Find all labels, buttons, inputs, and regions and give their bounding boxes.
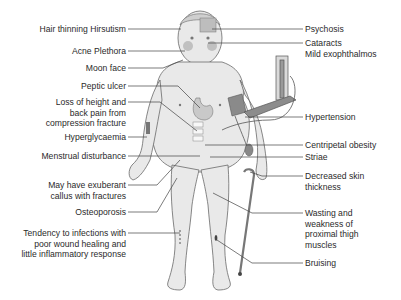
label-exuberant-callus: May have exuberant callus with fractures bbox=[2, 180, 126, 201]
label-osteoporosis: Osteoporosis bbox=[2, 207, 126, 218]
label-hyperglycaemia: Hyperglycaemia bbox=[2, 132, 126, 143]
label-peptic-ulcer: Peptic ulcer bbox=[2, 81, 126, 92]
label-decreased-skin-thickness: Decreased skin thickness bbox=[305, 171, 364, 192]
label-acne-plethora: Acne Plethora bbox=[2, 46, 126, 57]
label-hair-thinning-hirsutism: Hair thinning Hirsutism bbox=[2, 24, 126, 35]
label-wasting-weakness: Wasting and weakness of proximal thigh m… bbox=[305, 208, 359, 250]
label-moon-face: Moon face bbox=[2, 63, 126, 74]
brain-window bbox=[200, 18, 216, 32]
label-infection-tendency: Tendency to infections with poor wound h… bbox=[2, 228, 126, 260]
label-hypertension: Hypertension bbox=[305, 112, 356, 123]
walking-cane bbox=[240, 169, 254, 273]
bulb bbox=[245, 144, 253, 156]
label-psychosis: Psychosis bbox=[305, 24, 344, 35]
cheek bbox=[207, 41, 217, 51]
cheek bbox=[183, 41, 193, 51]
label-menstrual-disturbance: Menstrual disturbance bbox=[2, 151, 126, 162]
glucometer bbox=[146, 122, 150, 134]
left-leg bbox=[168, 165, 199, 290]
right-leg bbox=[201, 165, 230, 290]
label-bruising: Bruising bbox=[305, 258, 336, 269]
label-centripetal-obesity: Centripetal obesity bbox=[305, 140, 376, 151]
label-cataracts: Cataracts Mild exophthalmos bbox=[305, 38, 377, 59]
label-loss-of-height: Loss of height and back pain from compre… bbox=[2, 97, 126, 129]
label-striae: Striae bbox=[305, 152, 327, 163]
